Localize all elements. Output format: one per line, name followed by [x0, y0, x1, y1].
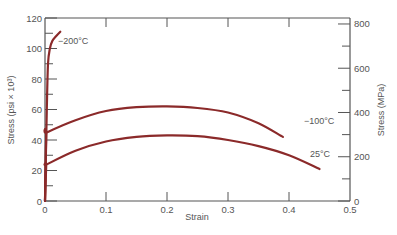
curve-labels: −200°C−100°C25°C: [58, 36, 335, 159]
curves: [45, 32, 320, 201]
stress-strain-chart: 00.10.20.30.40.5 020406080100120 0200400…: [0, 0, 397, 235]
y2-tick-label: 400: [354, 107, 370, 118]
y2-tick-label: 800: [354, 18, 370, 29]
y2-tick-label: 600: [354, 63, 370, 74]
curve-0: [45, 32, 60, 201]
y-tick-label: 100: [26, 43, 42, 54]
y-tick-label: 120: [26, 13, 42, 24]
x-tick-label: 0: [42, 204, 47, 215]
y2-tick-label: 0: [354, 196, 359, 207]
curve-2: [45, 135, 320, 201]
curve-label-1: −100°C: [304, 116, 335, 126]
y-tick-label: 20: [31, 165, 42, 176]
curve-1: [45, 106, 283, 201]
y-axis-title-left: Stress (psi × 10³): [6, 76, 16, 145]
curve-label-0: −200°C: [58, 36, 89, 46]
y-tick-label: 60: [31, 104, 42, 115]
plot-frame: [45, 18, 350, 201]
y-axis-title-right: Stress (MPa): [376, 84, 386, 137]
y-tick-label: 40: [31, 135, 42, 146]
x-tick-label: 0.2: [160, 204, 173, 215]
x-axis-title: Strain: [185, 212, 209, 222]
y-tick-label: 80: [31, 74, 42, 85]
y-tick-label: 0: [37, 196, 42, 207]
x-tick-label: 0.4: [282, 204, 295, 215]
y2-tick-label: 200: [354, 151, 370, 162]
x-tick-label: 0.1: [99, 204, 112, 215]
y-ticks-right: 0200400600800: [338, 18, 370, 206]
curve-label-2: 25°C: [310, 149, 331, 159]
x-tick-label: 0.3: [221, 204, 234, 215]
